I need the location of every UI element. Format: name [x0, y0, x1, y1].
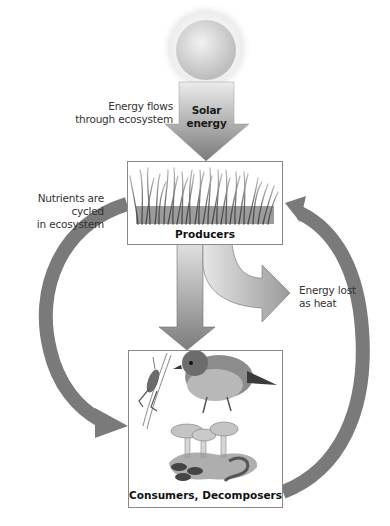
energy-flow-label: Energy flows through ecosystem — [70, 100, 173, 126]
nutrients-cycled-label: Nutrients are cycled in ecosystem — [2, 192, 104, 231]
heat-label-line1: Energy lost — [299, 284, 369, 297]
bird-icon — [173, 351, 277, 413]
sun-icon — [160, 2, 252, 94]
consumers-decomposers-box: Consumers, Decomposers — [128, 350, 283, 508]
solar-energy-label-line1: Solar — [179, 104, 234, 117]
energy-flow-label-line2: through ecosystem — [70, 113, 173, 126]
producers-box: Producers — [127, 161, 283, 245]
ecosystem-diagram: Energy flows through ecosystem Solar ene… — [0, 0, 390, 526]
nutrients-label-line2: in ecosystem — [2, 218, 104, 231]
solar-energy-label-line2: energy — [179, 117, 234, 130]
consumers-illustration — [129, 351, 282, 487]
energy-lost-heat-label: Energy lost as heat — [299, 284, 369, 310]
heat-label-line2: as heat — [299, 297, 369, 310]
consumers-decomposers-label: Consumers, Decomposers — [129, 489, 282, 501]
solar-energy-label: Solar energy — [179, 104, 234, 130]
mushroom-icon — [171, 422, 238, 457]
nutrient-cycle-arc-left — [46, 204, 128, 438]
nutrients-label-line1: Nutrients are cycled — [2, 192, 104, 218]
grass-illustration — [128, 164, 282, 228]
energy-flow-label-line1: Energy flows — [70, 100, 173, 113]
producers-label: Producers — [128, 228, 282, 240]
nutrient-cycle-arc-right — [283, 196, 363, 492]
grasshopper-icon — [139, 357, 162, 411]
heat-loss-arrow — [203, 244, 290, 322]
